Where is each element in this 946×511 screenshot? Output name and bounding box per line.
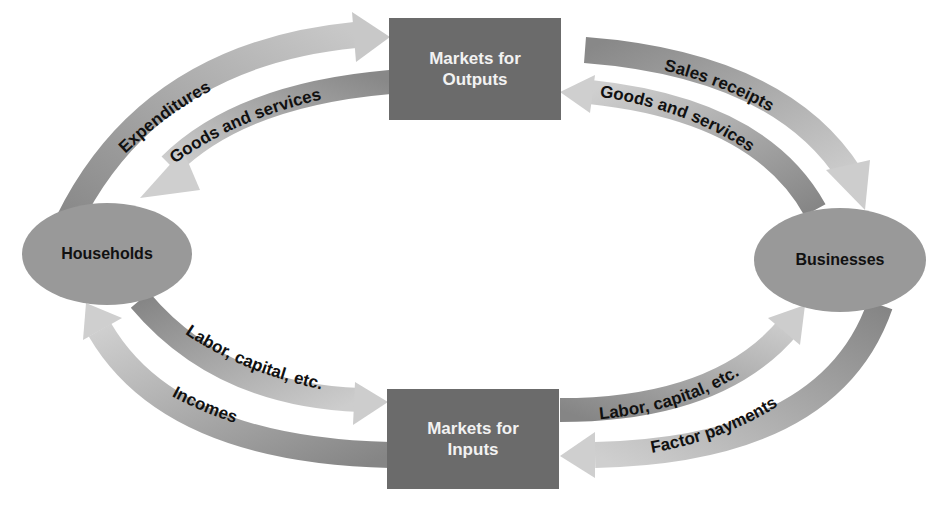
households-label: Households <box>61 245 153 263</box>
households-node: Households <box>22 203 192 305</box>
arrowhead-icon <box>352 12 390 62</box>
markets-for-inputs-box: Markets for Inputs <box>387 389 559 489</box>
businesses-node: Businesses <box>754 208 926 312</box>
labor-capital-left-arrow <box>140 300 360 400</box>
businesses-label: Businesses <box>796 251 885 269</box>
markets-inputs-line1: Markets for <box>427 418 519 439</box>
markets-outputs-line2: Outputs <box>442 69 507 90</box>
markets-inputs-line2: Inputs <box>448 439 499 460</box>
arrowhead-icon <box>353 382 388 425</box>
arrowhead-icon <box>560 75 595 113</box>
markets-outputs-line1: Markets for <box>429 48 521 69</box>
arrowhead-icon <box>560 432 595 478</box>
markets-for-outputs-box: Markets for Outputs <box>389 18 561 120</box>
labor-capital-right-label: Labor, capital, etc. <box>598 362 742 423</box>
